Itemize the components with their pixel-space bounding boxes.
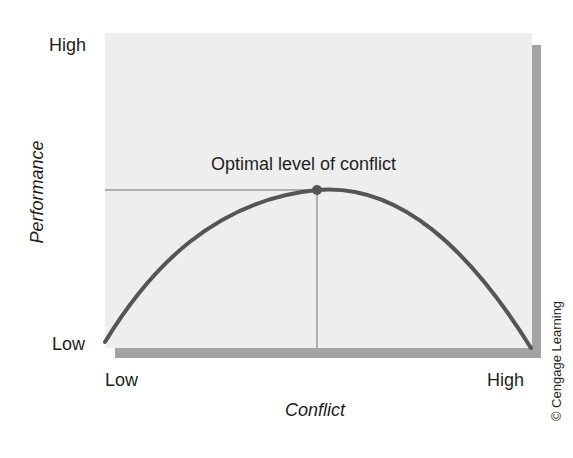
y-axis-title: Performance xyxy=(27,140,47,243)
copyright-notice: © Cengage Learning xyxy=(549,301,564,421)
optimal-level-annotation: Optimal level of conflict xyxy=(211,154,396,174)
y-axis-high-label: High xyxy=(49,35,86,55)
x-axis-low-label: Low xyxy=(105,370,139,390)
x-axis-title: Conflict xyxy=(285,400,346,420)
y-axis-low-label: Low xyxy=(52,334,86,354)
inverted-u-diagram: Optimal level of conflict High Low Perfo… xyxy=(0,0,573,458)
optimal-point-marker xyxy=(312,185,322,195)
right-shadow-bar xyxy=(532,45,541,358)
x-axis-high-label: High xyxy=(487,370,524,390)
bottom-shadow-bar xyxy=(115,348,541,358)
